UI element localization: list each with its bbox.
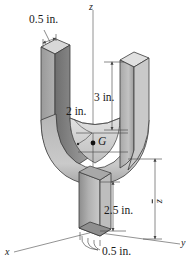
- dim-bend-radius-leader: [74, 119, 92, 145]
- axis-label-x: x: [5, 247, 9, 257]
- dim-label-base-width: 0.5 in.: [102, 246, 131, 258]
- centroid-label: G: [98, 136, 106, 148]
- centroid-point: [91, 141, 96, 146]
- axis-label-z: z: [89, 2, 93, 12]
- dim-label-bend-radius: 2 in.: [66, 106, 86, 118]
- dim-label-centroid-height-wrap: z: [148, 194, 168, 208]
- figure-canvas: 0.5 in. 3 in. 2 in. 2.5 in. 0.5 in. z G …: [0, 0, 194, 268]
- dim-arm-thickness-leader: [43, 30, 56, 47]
- dim-label-centroid-height: z: [152, 199, 165, 203]
- dimension-lines: [0, 0, 194, 268]
- dim-label-arm-height: 3 in.: [94, 92, 114, 104]
- dim-label-arm-thickness: 0.5 in.: [29, 14, 58, 26]
- dim-label-stem-height: 2.5 in.: [104, 205, 133, 217]
- dim-base-width-leader: [80, 232, 100, 250]
- axis-label-y: y: [181, 238, 185, 248]
